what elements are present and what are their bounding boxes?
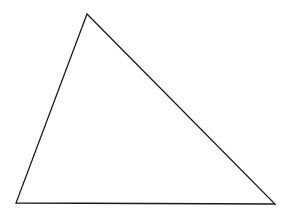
diagram-canvas <box>0 0 294 215</box>
triangle-shape <box>16 14 275 204</box>
triangle-diagram <box>0 0 294 215</box>
